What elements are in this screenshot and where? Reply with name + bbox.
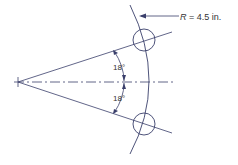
lower-angle-label: 18° [113,94,125,103]
angle-arrow-icon [122,83,126,89]
bolt-circle-diagram: R = 4.5 in. 18° 18° [0,0,238,165]
radius-label: R = 4.5 in. [180,12,221,22]
angle-arrow-icon [122,75,126,81]
upper-angle-label: 18° [113,63,125,72]
radius-leader-arrow-icon [139,14,146,19]
angle-arrow-icon [113,109,118,114]
radius-arc [130,5,149,154]
upper-hole-circle [133,29,155,51]
